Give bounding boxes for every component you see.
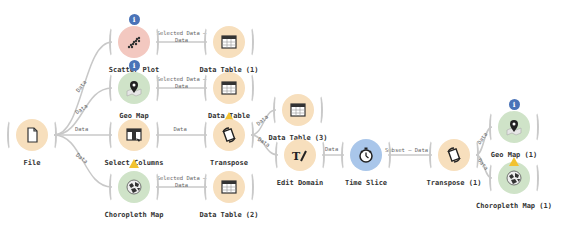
map-pin-icon xyxy=(505,118,523,136)
widget-icon-disc[interactable] xyxy=(118,119,150,151)
scatter-plot-icon xyxy=(125,33,143,51)
edit-domain-icon: T xyxy=(291,146,309,164)
link-label: Data xyxy=(75,126,88,133)
table-icon xyxy=(220,178,238,196)
warning-icon[interactable] xyxy=(509,157,519,166)
link-label: Data xyxy=(174,126,187,133)
info-icon[interactable]: i xyxy=(509,99,520,110)
link-label: Subset — Data xyxy=(385,147,428,154)
info-icon[interactable]: i xyxy=(129,14,140,25)
transpose-icon xyxy=(220,126,238,144)
widget-icon-disc[interactable] xyxy=(498,162,530,194)
stopwatch-icon xyxy=(357,146,375,164)
svg-text:T: T xyxy=(292,150,301,163)
widget-label[interactable]: Choropleth Map (1) xyxy=(454,202,561,210)
link-label: Selected Data —Data xyxy=(157,76,207,90)
workflow-canvas[interactable]: DataDataDataDataSelected Data —DataSelec… xyxy=(0,0,561,234)
link-label: Data xyxy=(325,146,338,153)
select-columns-icon xyxy=(125,126,143,144)
link-label: Selected Data —Data xyxy=(157,30,207,44)
widget-label[interactable]: Data Table (2) xyxy=(169,211,289,219)
widget-icon-disc[interactable] xyxy=(16,119,48,151)
table-icon xyxy=(220,79,238,97)
widget-icon-disc[interactable]: T xyxy=(284,139,316,171)
widget-icon-disc[interactable] xyxy=(213,171,245,203)
choropleth-icon xyxy=(125,178,143,196)
link-label: Selected Data —Data xyxy=(157,175,207,189)
widget-icon-disc[interactable] xyxy=(350,139,382,171)
widget-icon-disc[interactable] xyxy=(282,94,314,126)
map-pin-icon xyxy=(125,79,143,97)
file-icon xyxy=(23,126,41,144)
widget-icon-disc[interactable] xyxy=(118,26,150,58)
table-icon xyxy=(220,33,238,51)
table-icon xyxy=(289,101,307,119)
widget-icon-disc[interactable] xyxy=(213,72,245,104)
widget-icon-disc[interactable] xyxy=(213,26,245,58)
widget-icon-disc[interactable] xyxy=(118,171,150,203)
widget-icon-disc[interactable] xyxy=(118,72,150,104)
info-icon[interactable]: i xyxy=(129,60,140,71)
choropleth-icon xyxy=(505,169,523,187)
widget-icon-disc[interactable] xyxy=(498,111,530,143)
